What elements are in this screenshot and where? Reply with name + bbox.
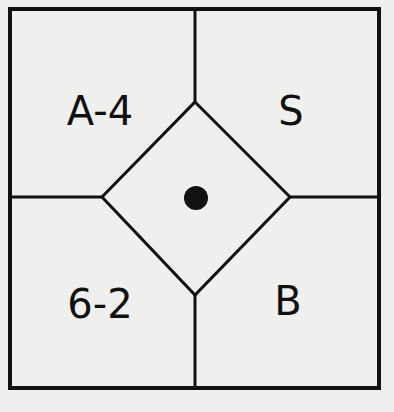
diagram-canvas: A-4 S 6-2 B [0, 0, 394, 412]
center-dot [184, 186, 208, 210]
label-top-right: S [278, 88, 303, 134]
diagram-svg: A-4 S 6-2 B [0, 0, 394, 412]
label-bottom-left: 6-2 [67, 281, 132, 327]
label-bottom-right: B [274, 278, 301, 324]
label-top-left: A-4 [67, 88, 133, 134]
